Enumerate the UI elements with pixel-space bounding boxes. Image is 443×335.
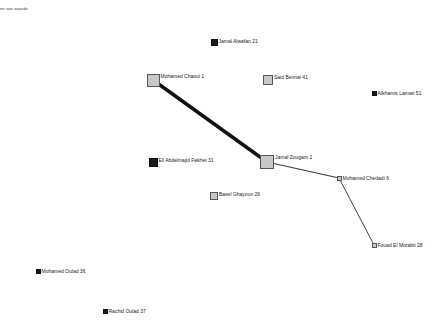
node-mohamed-oulad[interactable] [36, 269, 41, 274]
node-label: Alkhamis Lamari 51 [378, 90, 422, 96]
node-jamal-alwafan[interactable] [211, 39, 218, 46]
edge-mohamed-chaoui-jamal-zougam [153, 80, 267, 162]
node-label: Ell Abdelmajid Fakhet 31 [159, 157, 214, 163]
node-basel-ghayoun[interactable] [210, 192, 218, 200]
node-label: Rachid Oulad 37 [109, 308, 146, 314]
node-ell-abdelmajid-fakhet[interactable] [149, 158, 158, 167]
node-rachid-oulad[interactable] [103, 309, 108, 314]
node-label: Jamal Zougam 1 [275, 154, 312, 160]
edge-jamal-zougam-mohamed-chedadi [267, 162, 339, 178]
network-canvas [0, 0, 443, 335]
node-label: Mohamed Chedadi 6 [343, 175, 389, 181]
node-fouad-el-morabit[interactable] [372, 243, 377, 248]
node-alkhamis-lamari[interactable] [372, 91, 377, 96]
node-label: Jamal Alwafan 21 [219, 38, 258, 44]
node-said-bennai[interactable] [263, 75, 273, 85]
edge-mohamed-chedadi-fouad-el-morabit [339, 178, 374, 245]
node-label: Basel Ghayoun 26 [219, 191, 260, 197]
node-label: Mohamed Chaoui 1 [161, 73, 205, 79]
node-mohamed-chedadi[interactable] [337, 176, 342, 181]
node-mohamed-chaoui[interactable] [147, 74, 160, 87]
node-label: Said Bennai 41 [274, 74, 308, 80]
node-label: Fouad El Morabit 28 [378, 242, 423, 248]
node-jamal-zougam[interactable] [260, 155, 274, 169]
node-label: Mohamed Oulad 36 [42, 268, 86, 274]
